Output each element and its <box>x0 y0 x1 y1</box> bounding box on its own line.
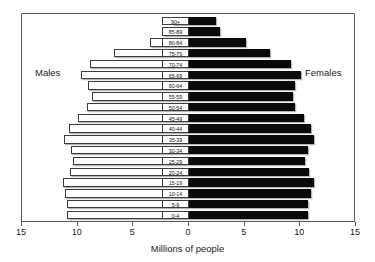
age-group-label: 35-39 <box>162 135 189 143</box>
x-tick-label: 5 <box>241 227 246 237</box>
x-tick-label: 0 <box>185 227 190 237</box>
age-group-label: 10-14 <box>162 189 189 197</box>
x-tick-label: 10 <box>294 227 304 237</box>
x-tick-mark <box>132 222 133 226</box>
age-group-label: 45-49 <box>162 114 189 122</box>
x-tick-mark <box>244 222 245 226</box>
age-group-label: 85-89 <box>162 27 189 35</box>
age-group-label: 70-74 <box>162 60 189 68</box>
age-group-label: 15-19 <box>162 178 189 186</box>
age-group-label: 75-79 <box>162 49 189 57</box>
x-tick-mark <box>299 222 300 226</box>
age-group-label: 90+ <box>162 17 189 25</box>
x-tick-mark <box>188 222 189 226</box>
x-tick-mark <box>355 222 356 226</box>
age-group-label: 20-24 <box>162 168 189 176</box>
x-tick-label: 10 <box>72 227 82 237</box>
age-group-label: 65-69 <box>162 71 189 79</box>
age-group-label: 40-44 <box>162 124 189 132</box>
age-group-label: 60-64 <box>162 81 189 89</box>
age-group-label: 5-9 <box>162 200 189 208</box>
age-group-label: 80-84 <box>162 38 189 46</box>
x-tick-label: 5 <box>130 227 135 237</box>
age-group-label: 0-4 <box>162 211 189 219</box>
age-group-label: 55-59 <box>162 92 189 100</box>
age-group-label: 25-29 <box>162 157 189 165</box>
population-pyramid-chart: 90+85-8980-8475-7970-7465-6960-6455-5950… <box>0 0 375 262</box>
age-group-label: 50-54 <box>162 103 189 111</box>
x-tick-label: 15 <box>16 227 26 237</box>
x-tick-mark <box>21 222 22 226</box>
x-tick-label: 15 <box>350 227 360 237</box>
x-tick-mark <box>77 222 78 226</box>
age-group-label: 30-34 <box>162 146 189 154</box>
x-axis-title: Millions of people <box>0 243 375 254</box>
